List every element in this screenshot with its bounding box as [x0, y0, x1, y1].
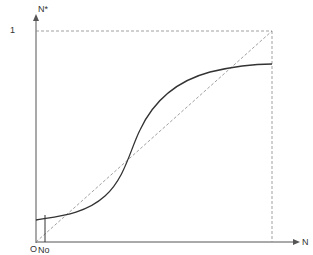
y-axis-label: N* [38, 4, 48, 14]
origin-label: O [30, 244, 37, 254]
diagram-canvas [0, 0, 313, 255]
x-axis-label: N [302, 237, 309, 247]
diagonal-dashed-line [36, 31, 272, 242]
x-axis-arrow-icon [293, 239, 300, 245]
s-curve [36, 64, 272, 220]
y-tick-label: 1 [10, 25, 15, 35]
y-axis-arrow-icon [33, 14, 39, 21]
x-marker-label: No [38, 245, 50, 255]
